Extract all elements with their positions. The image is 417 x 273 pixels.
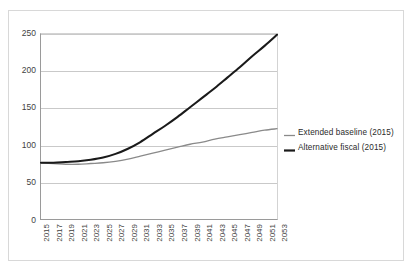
legend-label: Extended baseline (2015) <box>298 128 394 137</box>
x-tick-label-2047: 2047 <box>244 224 252 264</box>
y-tick-label-250: 250 <box>2 29 36 38</box>
chart-figure: 250200150100500 201520172019202120232025… <box>0 0 417 273</box>
x-tick-label-2039: 2039 <box>194 224 202 264</box>
x-tick-label-2045: 2045 <box>231 224 239 264</box>
x-tick-label-2051: 2051 <box>269 224 277 264</box>
y-tick-label-100: 100 <box>2 141 36 150</box>
x-tick-label-2037: 2037 <box>181 224 189 264</box>
x-tick-label-2017: 2017 <box>56 224 64 264</box>
legend-label: Alternative fiscal (2015) <box>298 143 386 152</box>
x-tick-label-2029: 2029 <box>131 224 139 264</box>
x-tick-label-2025: 2025 <box>106 224 114 264</box>
y-tick-label-50: 50 <box>2 178 36 187</box>
chart-plot-region: 250200150100500 201520172019202120232025… <box>0 0 417 273</box>
y-tick-label-0: 0 <box>2 216 36 225</box>
chart-legend: Extended baseline (2015) Alternative fis… <box>284 126 416 156</box>
x-tick-label-2021: 2021 <box>81 224 89 264</box>
x-tick-label-2031: 2031 <box>143 224 151 264</box>
x-tick-label-2033: 2033 <box>156 224 164 264</box>
x-tick-label-2023: 2023 <box>93 224 101 264</box>
x-tick-label-2041: 2041 <box>206 224 214 264</box>
x-tick-label-2027: 2027 <box>118 224 126 264</box>
x-tick-label-2019: 2019 <box>68 224 76 264</box>
x-tick-label-2053: 2053 <box>281 224 289 264</box>
x-tick-label-2043: 2043 <box>219 224 227 264</box>
x-tick-label-2049: 2049 <box>256 224 264 264</box>
y-tick-label-150: 150 <box>2 103 36 112</box>
legend-swatch-icon <box>284 139 295 157</box>
x-tick-label-2015: 2015 <box>43 224 51 264</box>
legend-item-alternative-fiscal: Alternative fiscal (2015) <box>284 141 416 154</box>
y-tick-label-200: 200 <box>2 66 36 75</box>
legend-item-extended-baseline: Extended baseline (2015) <box>284 126 416 139</box>
x-tick-label-2035: 2035 <box>168 224 176 264</box>
